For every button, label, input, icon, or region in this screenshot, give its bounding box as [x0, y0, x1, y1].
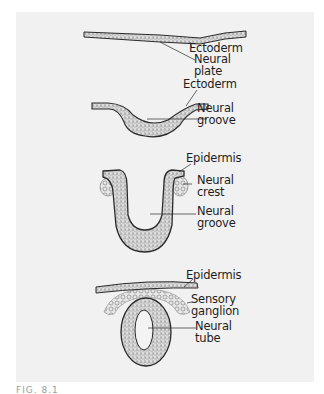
label-neural-tube-line2: tube: [195, 332, 220, 344]
label-neural-groove-line2: groove: [197, 114, 236, 126]
label-neural-crest-line2: crest: [197, 186, 224, 198]
label-epidermis-1: Epidermis: [186, 152, 241, 164]
stage-neural-tube: [96, 279, 198, 366]
label-sensory-ganglion-line2: ganglion: [191, 305, 239, 317]
figure-caption: FIG. 8.1: [16, 385, 59, 394]
label-epidermis-2: Epidermis: [186, 269, 241, 281]
label-neural-plate-line2: plate: [194, 65, 222, 77]
label-neural-groove-late-line2: groove: [197, 217, 236, 229]
stage-neural-groove-late: [100, 164, 196, 252]
stage-neural-groove-early: [92, 90, 208, 137]
label-ectoderm-2: Ectoderm: [183, 78, 237, 90]
neural-tube-formation-diagram: [0, 0, 324, 394]
